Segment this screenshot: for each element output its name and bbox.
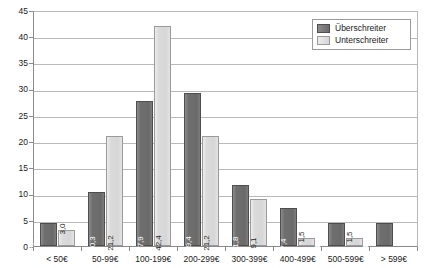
x-tick-mark (225, 247, 226, 251)
bar-value-label: 27,9 (137, 236, 145, 252)
y-tick-label: 5 (3, 217, 28, 226)
y-tick-label: 25 (3, 112, 28, 121)
x-tick-mark (273, 247, 274, 251)
bar-value-label: 4,4 (362, 238, 384, 249)
bar-slot: 11,8 (231, 12, 249, 246)
bar-slot: 21,2 (202, 12, 220, 246)
bar-chart: 45 40 35 30 25 20 15 10 5 0 4,43,010,321… (0, 0, 426, 268)
bar-value-label: 3,0 (59, 224, 67, 235)
bar[interactable]: 4,4 (40, 223, 57, 246)
bar-group: 27,942,4 (130, 12, 178, 246)
legend-swatch-icon (317, 36, 330, 45)
bar-value-label: 29,4 (185, 236, 193, 252)
legend-item-label: Überschreiter (335, 24, 386, 33)
y-tick-label: 20 (3, 138, 28, 147)
bar-slot: 4,4 (40, 12, 58, 246)
y-tick-label: 30 (3, 85, 28, 94)
bar-slot: 27,9 (136, 12, 154, 246)
bar-value-label: 4,4 (27, 238, 49, 249)
bar-value-label: 4,4 (314, 238, 336, 249)
bar-group: 11,89,1 (226, 12, 274, 246)
legend-swatch-icon (317, 24, 330, 33)
bar[interactable]: 10,3 (88, 192, 105, 246)
y-tick-label: 0 (3, 243, 28, 252)
bar[interactable]: 3,0 (58, 230, 75, 246)
x-axis-category-label: 400-499€ (274, 254, 322, 264)
bar-value-label: 10,3 (89, 236, 97, 252)
x-tick-mark (33, 247, 34, 251)
legend-item-label: Unterschreiter (335, 36, 388, 45)
bar[interactable]: 4,4 (376, 223, 393, 246)
x-axis-category-label: < 50€ (33, 254, 81, 264)
bar-value-label: 7,4 (280, 238, 288, 249)
bar[interactable]: 11,8 (232, 185, 249, 246)
bar-slot: 42,4 (154, 12, 172, 246)
x-axis-category-label: > 599€ (370, 254, 418, 264)
legend-item-uberschreiter: Überschreiter (317, 23, 406, 34)
bar[interactable]: 1,5 (346, 238, 363, 246)
bar-value-label: 21,2 (203, 235, 211, 251)
bar[interactable]: 21,2 (202, 136, 219, 246)
legend-item-unterschreiter: Unterschreiter (317, 35, 406, 46)
bar-value-label: 9,1 (250, 237, 258, 248)
bar-value-label: 42,4 (155, 235, 163, 251)
bar-value-label: 11,8 (232, 237, 240, 252)
x-axis-category-label: 300-399€ (226, 254, 274, 264)
bar-slot: 10,3 (88, 12, 106, 246)
bar-slot: 9,1 (249, 12, 267, 246)
x-axis-category-label: 50-99€ (81, 254, 129, 264)
bar-slot: 7,4 (279, 12, 297, 246)
x-tick-mark (81, 247, 82, 251)
chart-legend: Überschreiter Unterschreiter (312, 19, 411, 50)
x-tick-mark (369, 247, 370, 251)
bar[interactable]: 9,1 (250, 199, 267, 246)
y-tick-label: 40 (3, 33, 28, 42)
bar-value-label: 1,5 (298, 232, 306, 243)
y-tick-label: 35 (3, 59, 28, 68)
x-axis-category-label: 100-199€ (129, 254, 177, 264)
bar-slot: 21,2 (106, 12, 124, 246)
bar[interactable]: 21,2 (106, 136, 123, 246)
x-axis-category-label: 500-599€ (322, 254, 370, 264)
bar-value-label: 21,2 (107, 235, 115, 251)
bar[interactable]: 27,9 (136, 101, 153, 246)
bar-group: 29,421,2 (178, 12, 226, 246)
x-tick-mark (129, 247, 130, 251)
bar-group: 4,43,0 (34, 12, 82, 246)
x-axis-category-label: 200-299€ (177, 254, 225, 264)
bar[interactable]: 42,4 (154, 26, 171, 246)
x-tick-mark (417, 247, 418, 251)
bar-value-label: 1,5 (346, 232, 354, 243)
bar[interactable]: 4,4 (328, 223, 345, 246)
bar-slot: 29,4 (184, 12, 202, 246)
bar[interactable]: 7,4 (280, 208, 297, 246)
x-tick-mark (177, 247, 178, 251)
x-tick-mark (321, 247, 322, 251)
bar-slot: 3,0 (58, 12, 76, 246)
bar[interactable]: 29,4 (184, 93, 201, 246)
y-tick-label: 10 (3, 190, 28, 199)
bar-group: 10,321,2 (82, 12, 130, 246)
x-axis-labels: < 50€50-99€100-199€200-299€300-399€400-4… (33, 254, 418, 264)
y-tick-label: 15 (3, 164, 28, 173)
y-tick-label: 45 (3, 7, 28, 16)
